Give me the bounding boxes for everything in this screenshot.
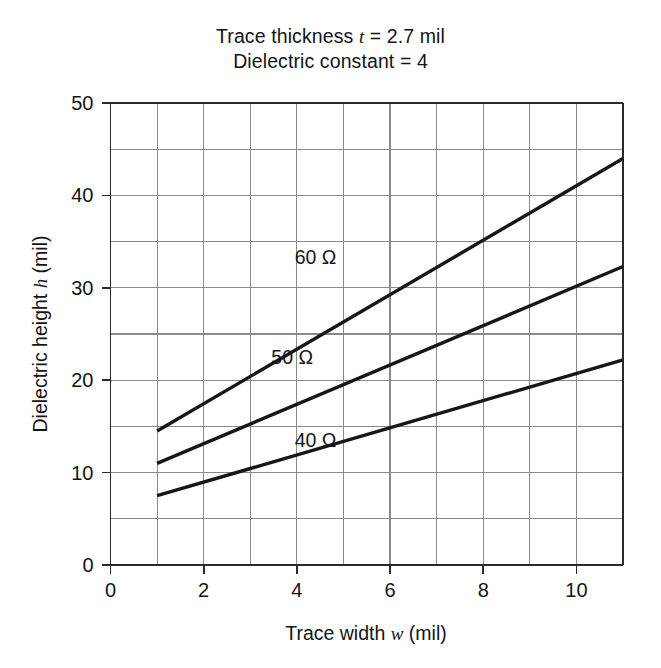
grid-horizontal-group	[111, 103, 624, 565]
y-tick-labels: 01020304050	[71, 92, 93, 576]
x-tick-label: 2	[198, 579, 209, 601]
y-axis-title-prefix: Dielectric height	[29, 288, 51, 432]
y-tick-label: 20	[71, 369, 93, 391]
curve-label-50-ohm: 50 Ω	[271, 346, 313, 368]
y-axis-title: Dielectric height h (mil)	[29, 236, 51, 433]
x-axis-title-suffix: (mil)	[403, 622, 446, 644]
curve-label-60-ohm: 60 Ω	[295, 246, 337, 268]
chart-title-line-2: Dielectric constant = 4	[0, 49, 661, 74]
y-axis-title-symbol-h: h	[30, 279, 51, 289]
chart-title-line-1-prefix: Trace thickness	[216, 25, 359, 47]
svg-text:Dielectric height h (mil): Dielectric height h (mil)	[29, 236, 51, 433]
y-tick-label: 50	[71, 92, 93, 114]
chart-title: Trace thickness t = 2.7 mil Dielectric c…	[0, 24, 661, 74]
curve-label-40-ohm: 40 Ω	[295, 429, 337, 451]
chart-title-line-1-suffix: = 2.7 mil	[364, 25, 445, 47]
tick-marks-group	[102, 103, 577, 574]
y-tick-label: 0	[82, 554, 93, 576]
chart-title-line-1: Trace thickness t = 2.7 mil	[0, 24, 661, 49]
curve-labels-group: 60 Ω50 Ω40 Ω	[271, 246, 336, 451]
y-tick-label: 40	[71, 184, 93, 206]
x-axis-title: Trace width w (mil)	[285, 622, 447, 644]
y-tick-label: 10	[71, 462, 93, 484]
chart-figure: Trace thickness t = 2.7 mil Dielectric c…	[0, 0, 661, 668]
x-tick-label: 0	[105, 579, 116, 601]
x-tick-labels: 0246810	[105, 579, 588, 601]
svg-text:Trace width w (mil): Trace width w (mil)	[285, 622, 447, 644]
x-axis-title-symbol-w: w	[391, 623, 404, 644]
chart-canvas: 0246810 01020304050 60 Ω50 Ω40 Ω Trace w…	[0, 0, 661, 668]
x-tick-label: 6	[384, 579, 395, 601]
x-axis-title-prefix: Trace width	[285, 622, 390, 644]
y-axis-title-suffix: (mil)	[29, 236, 51, 279]
x-tick-label: 10	[565, 579, 587, 601]
x-tick-label: 4	[291, 579, 302, 601]
x-tick-label: 8	[478, 579, 489, 601]
y-tick-label: 30	[71, 277, 93, 299]
